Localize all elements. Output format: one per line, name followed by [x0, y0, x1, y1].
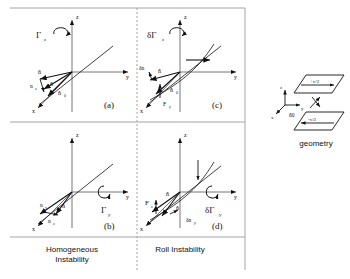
panel-dividers [10, 8, 245, 270]
panel-b-director-line [38, 164, 113, 224]
panel-d-label-Fz-sub: z [151, 204, 153, 209]
panel-c-label-Fy-sub: y [169, 104, 171, 109]
panel-d-label-n-hat-b: n̂ [176, 205, 179, 211]
panel-b-torque-sub: y [108, 212, 111, 217]
panel-d-label-n-hat-a: n̂ [166, 191, 169, 197]
panel-b-label-nz: n [48, 218, 51, 224]
panel-c-axis-y-label: y [234, 74, 237, 80]
panel-a-rotation-arrow [54, 28, 68, 36]
panel-b: z y x n x n z n̂ Γ y (b) Homogeneous Ins… [32, 132, 129, 264]
panel-c-label-n-hat-0: n̂ [170, 87, 173, 93]
panel-d-vector-n-hat-b [162, 192, 180, 216]
panel-d-director-line [148, 166, 221, 224]
panel-d: z y x F z n̂ n̂ δn y δΓ y (d) Roll Insta… [140, 132, 237, 254]
panel-d-axis-z-label: z [184, 132, 187, 138]
panel-a-label-n-hat-0-sub: 0 [64, 93, 66, 98]
geometry-bottom-plate [294, 112, 344, 130]
panel-c-tag: (c) [212, 100, 222, 110]
panel-c: z y x δn n̂ n̂ 0 F y δΓ z (c) [139, 14, 237, 114]
panel-b-axis-y-label: y [126, 194, 129, 200]
panel-b-label-nx: n [40, 202, 43, 208]
panel-c-vector-delta-n [149, 72, 152, 80]
panel-d-label-delta-ny: δn [186, 217, 192, 223]
panel-b-axis-z-label: z [76, 132, 79, 138]
panel-a-torque-sub: z [44, 37, 47, 42]
geometry-axis-x [276, 105, 285, 114]
panel-b-label-nz-sub: z [53, 221, 55, 226]
geometry-director-label: n̂0 [289, 112, 295, 118]
panel-a-axis-y-label: y [126, 74, 129, 80]
geometry-title: geometry [299, 139, 332, 148]
panel-d-torque-sub: y [219, 212, 222, 217]
panel-c-torque-label: δΓ [147, 30, 156, 40]
panel-c-rotation-arrow [170, 28, 184, 36]
panel-c-director-line [148, 46, 221, 104]
panel-d-torque-label: δΓ [205, 205, 214, 215]
panel-b-vector-nx [40, 192, 72, 214]
panel-a-axis-x-label: x [32, 108, 35, 114]
panel-c-axis-x-label: x [140, 108, 143, 114]
geometry-axis-x-label: x [271, 115, 274, 120]
geometry-top-velocity-label: +v/2 [310, 79, 320, 84]
panel-a-torque-label: Γ [36, 30, 41, 40]
panel-a-vector-nz [40, 79, 44, 92]
panel-d-tag: (d) [212, 221, 223, 231]
panel-a-label-n-tilde: ñ [38, 69, 41, 75]
figure-svg: z y x ñ n z n̂ n̂ 0 Γ z (a) [0, 0, 350, 279]
panel-a-label-n-hat-0: n̂ [58, 90, 61, 96]
panel-d-axis-x-label: x [140, 226, 143, 232]
geometry-top-plate [294, 75, 344, 93]
panel-d-axis-y-label: y [234, 194, 237, 200]
figure-root: z y x ñ n z n̂ n̂ 0 Γ z (a) [0, 0, 350, 279]
panel-a-label-nz-sub: z [35, 86, 37, 91]
panel-b-caption-line2: Instability [55, 255, 88, 264]
panel-a-director-line [40, 46, 113, 104]
panel-c-label-Fy: F [163, 101, 167, 107]
panel-d-caption-line1: Roll Instability [155, 245, 204, 254]
panel-b-torque-label: Γ [101, 205, 106, 215]
panel-a-label-n-hat: n̂ [50, 81, 53, 87]
panel-c-torque-sub: z [162, 37, 165, 42]
panel-c-axis-z-label: z [184, 14, 187, 20]
panel-b-axis-x [38, 192, 72, 226]
panel-b-axis-x-label: x [32, 226, 35, 232]
panel-a-tag: (a) [104, 100, 114, 110]
panel-a: z y x ñ n z n̂ n̂ 0 Γ z (a) [30, 14, 129, 114]
panel-d-label-delta-ny-sub: y [194, 220, 196, 225]
panel-a-axis-z-label: z [76, 14, 79, 20]
panel-a-label-nz: n [30, 83, 33, 89]
geometry-bottom-velocity-label: -v/2 [308, 117, 317, 122]
panel-b-tag: (b) [104, 221, 115, 231]
panel-c-label-n-hat-0-sub: 0 [176, 90, 178, 95]
panel-d-axis-x [146, 192, 180, 226]
geometry-inset: z y x n̂0 +v/2 -v/2 geometry [271, 75, 344, 148]
panel-d-label-Fz: F [145, 199, 149, 207]
panel-c-label-n-hat: n̂ [158, 68, 161, 74]
panel-b-label-n-hat: n̂ [62, 203, 65, 209]
panel-c-label-delta-n: δn [139, 65, 145, 71]
geometry-center-director [310, 97, 320, 108]
panel-b-caption-line1: Homogeneous [46, 245, 98, 254]
geometry-axis-z-label: z [280, 85, 283, 90]
panel-b-label-nx-sub: x [45, 205, 47, 210]
geometry-axis-y-label: y [301, 106, 304, 111]
